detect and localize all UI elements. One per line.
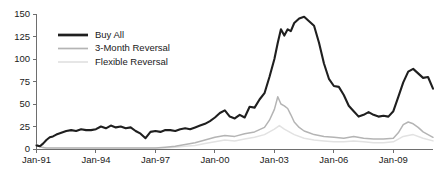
y-tick-label: 150 <box>14 8 30 19</box>
y-tick-label: 75 <box>19 76 30 87</box>
chart-container: 0255075100125150 Jan-91Jan-94Jan-97Jan-0… <box>0 0 438 176</box>
x-tick-label: Jan-09 <box>379 154 408 165</box>
x-tick-label: Jan-91 <box>22 154 51 165</box>
y-tick-label: 125 <box>14 31 30 42</box>
y-tick-label: 0 <box>25 143 30 154</box>
y-tick-label: 50 <box>19 98 30 109</box>
line-chart: 0255075100125150 Jan-91Jan-94Jan-97Jan-0… <box>0 0 438 176</box>
x-tick-label: Jan-03 <box>260 154 289 165</box>
y-tick-label: 25 <box>19 121 30 132</box>
legend-label-buy-all: Buy All <box>95 29 124 40</box>
plot-background <box>0 0 438 176</box>
y-tick-label: 100 <box>14 53 30 64</box>
x-tick-label: Jan-00 <box>200 154 229 165</box>
x-tick-label: Jan-06 <box>319 154 348 165</box>
x-tick-label: Jan-97 <box>141 154 170 165</box>
x-tick-label: Jan-94 <box>81 154 110 165</box>
legend-label-flexible-reversal: Flexible Reversal <box>95 56 168 67</box>
legend-label-3-month-reversal: 3-Month Reversal <box>95 42 170 53</box>
